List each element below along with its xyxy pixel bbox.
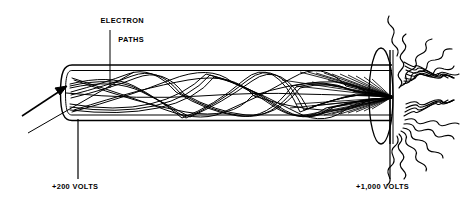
electron-tube-diagram: ELECTRON PATHS +200 VOLTS +1,000 VOLTS (0, 0, 474, 211)
electron-paths-label-line2: PATHS (118, 35, 144, 44)
electron-paths-label: ELECTRON PATHS (58, 6, 144, 54)
cathode-voltage-label: +200 VOLTS (52, 182, 98, 192)
anode-voltage-label: +1,000 VOLTS (356, 182, 409, 192)
x-ray-emission-rays (387, 16, 459, 185)
electron-paths-label-line1: ELECTRON (101, 16, 144, 25)
